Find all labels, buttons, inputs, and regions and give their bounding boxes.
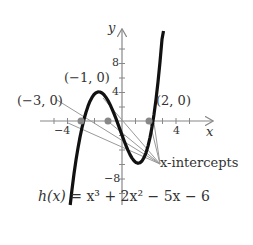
function-graph: y x −4 4 8 4 −8 (−3, 0) (−1, 0) (2, 0) x… [0,0,253,245]
point-label: (−1, 0) [64,70,110,85]
point-label: (−3, 0) [17,93,63,108]
tick-label: 4 [173,124,180,137]
intercept-dot [78,118,85,125]
intercept-dot [105,118,112,125]
tick-label: −4 [54,124,70,137]
x-axis-label: x [206,124,213,139]
callout-label: x-intercepts [160,155,238,170]
intercept-dot [146,118,153,125]
tick-label: 8 [112,56,119,69]
tick-label: 4 [112,85,119,98]
point-label: (2, 0) [156,93,191,108]
tick-label: −8 [104,172,120,185]
graph-svg [0,0,253,245]
equation: h(x) = x³ + 2x² − 5x − 6 [38,188,210,204]
y-axis-label: y [108,20,115,35]
